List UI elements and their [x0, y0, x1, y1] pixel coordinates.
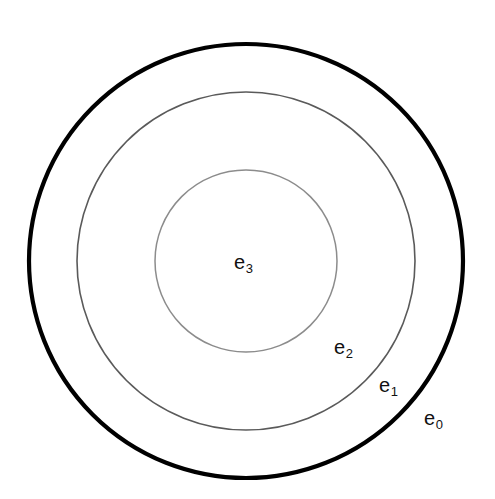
ring-label-e1-subscript: 1: [391, 384, 398, 399]
concentric-circles-svg: [0, 0, 495, 499]
ring-label-e1-base: e: [379, 374, 390, 396]
ring-label-e0-base: e: [424, 407, 435, 429]
diagram-canvas: e3 e2 e1 e0: [0, 0, 495, 499]
ring-label-e3: e3: [234, 252, 253, 272]
diagram-background: [0, 0, 495, 499]
ring-label-e2-base: e: [334, 336, 345, 358]
ring-label-e0-subscript: 0: [436, 417, 443, 432]
ring-label-e3-subscript: 3: [246, 261, 253, 276]
ring-label-e2: e2: [334, 337, 353, 357]
ring-label-e2-subscript: 2: [346, 346, 353, 361]
ring-label-e3-base: e: [234, 251, 245, 273]
ring-label-e0: e0: [424, 408, 443, 428]
ring-label-e1: e1: [379, 375, 398, 395]
